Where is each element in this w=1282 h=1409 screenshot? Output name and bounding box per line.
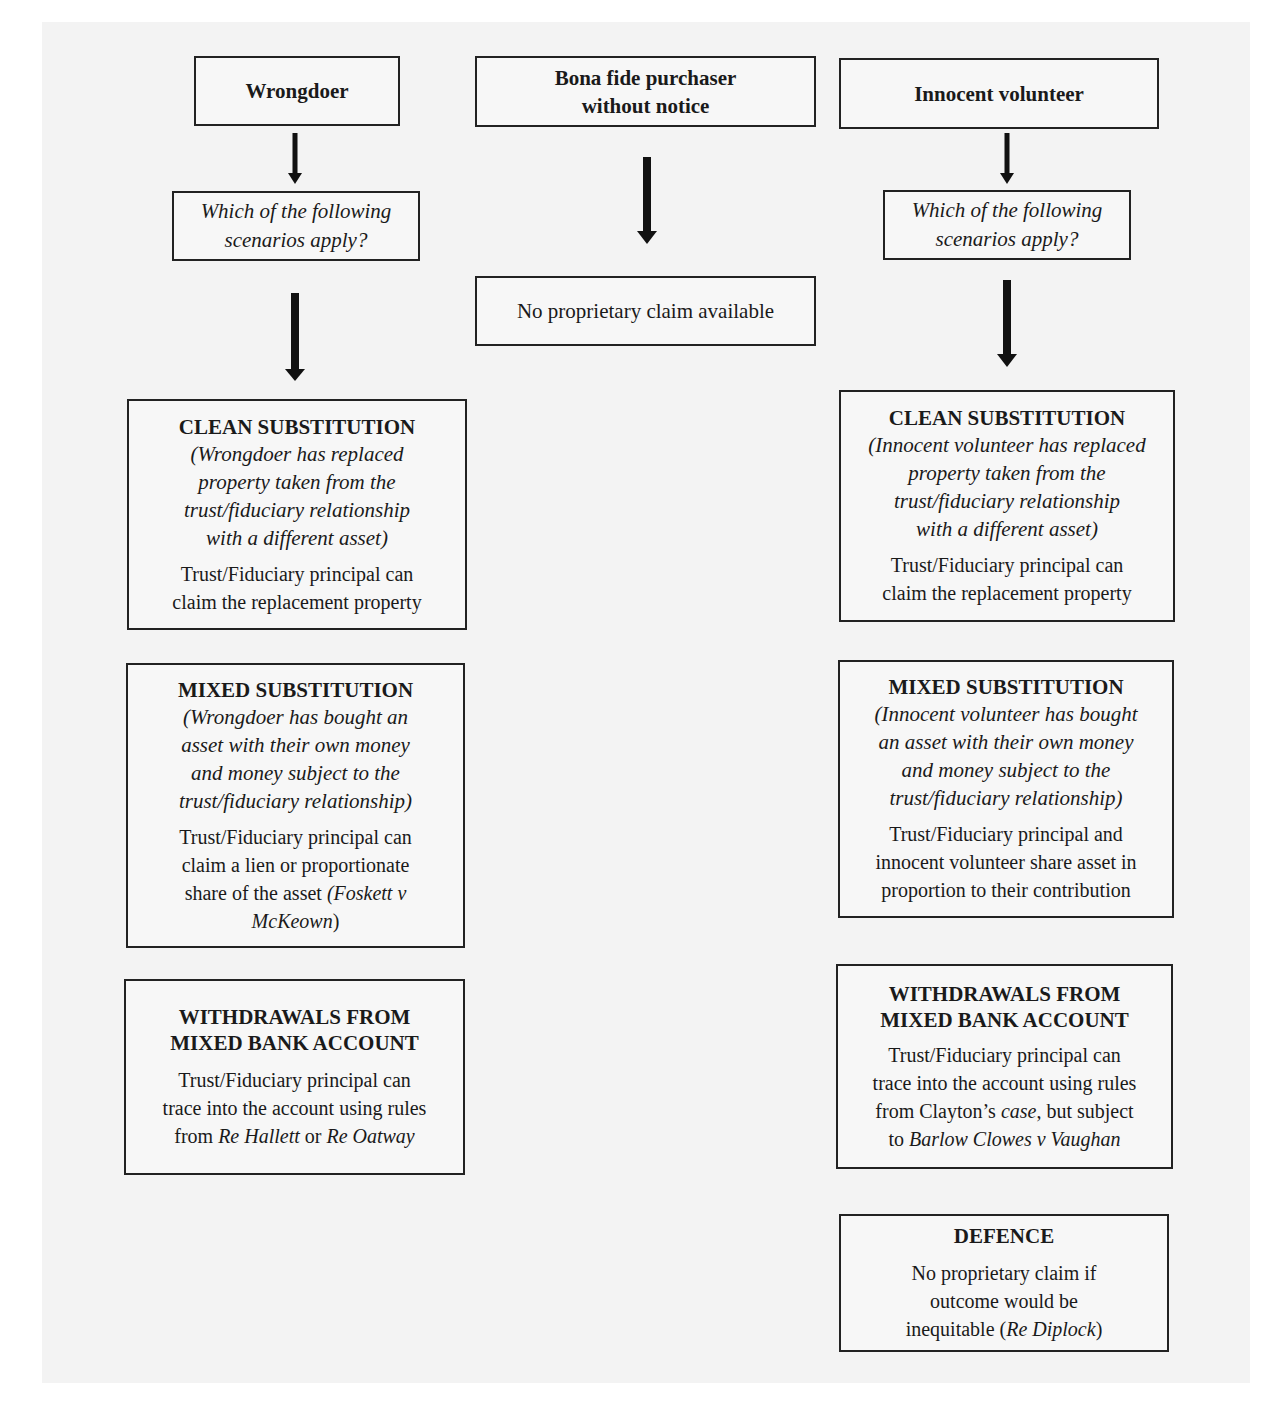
box-subtitle-line: with a different asset) bbox=[206, 524, 388, 552]
box-body-line: claim the replacement property bbox=[172, 588, 421, 616]
innocent-volunteer-question-box: Which of the following scenarios apply? bbox=[883, 190, 1131, 260]
box-body-line: inequitable (Re Diplock) bbox=[906, 1315, 1103, 1343]
box-subtitle-line: (Wrongdoer has bought an bbox=[183, 703, 408, 731]
box-body-line: Trust/Fiduciary principal can bbox=[873, 1041, 1137, 1069]
innocent-volunteer-clean-substitution-box: CLEAN SUBSTITUTION (Innocent volunteer h… bbox=[839, 390, 1175, 622]
case-citation: Re Hallett bbox=[218, 1125, 300, 1147]
box-title-line: WITHDRAWALS FROM bbox=[179, 1004, 411, 1030]
bona-fide-purchaser-header-box: Bona fide purchaser without notice bbox=[475, 56, 816, 127]
no-proprietary-claim-box: No proprietary claim available bbox=[475, 276, 816, 346]
case-citation: (Foskett v bbox=[327, 882, 406, 904]
box-body: Trust/Fiduciary principal and innocent v… bbox=[875, 820, 1136, 904]
box-body-line: Trust/Fiduciary principal can bbox=[163, 1066, 427, 1094]
box-subtitle-line: with a different asset) bbox=[916, 515, 1098, 543]
innocent-volunteer-header: Innocent volunteer bbox=[914, 82, 1084, 106]
box-body: Trust/Fiduciary principal can claim the … bbox=[882, 551, 1131, 607]
box-subtitle-line: property taken from the bbox=[908, 459, 1105, 487]
box-body: Trust/Fiduciary principal can trace into… bbox=[873, 1041, 1137, 1153]
arrow-down-icon bbox=[995, 280, 1019, 370]
box-body-line: outcome would be bbox=[906, 1287, 1103, 1315]
box-subtitle-line: trust/fiduciary relationship) bbox=[179, 787, 412, 815]
wrongdoer-clean-substitution-box: CLEAN SUBSTITUTION (Wrongdoer has replac… bbox=[127, 399, 467, 630]
box-subtitle-line: and money subject to the bbox=[902, 756, 1111, 784]
box-body-line: trace into the account using rules bbox=[163, 1094, 427, 1122]
case-citation: Re Diplock bbox=[1006, 1318, 1095, 1340]
box-body-line: innocent volunteer share asset in bbox=[875, 848, 1136, 876]
text-plain: ) bbox=[1096, 1318, 1103, 1340]
text-plain: from bbox=[174, 1125, 218, 1147]
box-body-line: proportion to their contribution bbox=[875, 876, 1136, 904]
box-subtitle-line: (Wrongdoer has replaced bbox=[190, 440, 403, 468]
box-body-line: from Re Hallett or Re Oatway bbox=[163, 1122, 427, 1150]
box-subtitle-line: (Innocent volunteer has bought bbox=[874, 700, 1137, 728]
box-body-line: Trust/Fiduciary principal and bbox=[875, 820, 1136, 848]
case-citation: McKeown bbox=[252, 910, 333, 932]
box-body-line: Trust/Fiduciary principal can bbox=[179, 823, 412, 851]
box-body-line: Trust/Fiduciary principal can bbox=[882, 551, 1131, 579]
text-plain: , but subject bbox=[1036, 1100, 1133, 1122]
box-body: Trust/Fiduciary principal can claim the … bbox=[172, 560, 421, 616]
box-subtitle-line: an asset with their own money bbox=[879, 728, 1134, 756]
box-title-line: MIXED BANK ACCOUNT bbox=[170, 1030, 419, 1056]
box-subtitle-line: and money subject to the bbox=[191, 759, 400, 787]
question-line: scenarios apply? bbox=[225, 226, 368, 255]
wrongdoer-mixed-substitution-box: MIXED SUBSTITUTION (Wrongdoer has bought… bbox=[126, 663, 465, 948]
box-title-line: WITHDRAWALS FROM bbox=[889, 981, 1121, 1007]
box-body-line: from Clayton’s case, but subject bbox=[873, 1097, 1137, 1125]
box-subtitle-line: (Innocent volunteer has replaced bbox=[868, 431, 1145, 459]
case-citation: Barlow Clowes v Vaughan bbox=[909, 1128, 1121, 1150]
wrongdoer-header-box: Wrongdoer bbox=[194, 56, 400, 126]
text-plain: from Clayton’s bbox=[875, 1100, 1001, 1122]
box-subtitle-line: trust/fiduciary relationship bbox=[184, 496, 410, 524]
wrongdoer-withdrawals-box: WITHDRAWALS FROM MIXED BANK ACCOUNT Trus… bbox=[124, 979, 465, 1175]
box-body-line: McKeown) bbox=[179, 907, 412, 935]
box-subtitle-line: asset with their own money bbox=[181, 731, 410, 759]
wrongdoer-header: Wrongdoer bbox=[245, 79, 348, 103]
box-title: DEFENCE bbox=[954, 1223, 1054, 1249]
case-citation: case bbox=[1001, 1100, 1037, 1122]
no-proprietary-claim-text: No proprietary claim available bbox=[517, 297, 774, 325]
box-body: No proprietary claim if outcome would be… bbox=[906, 1259, 1103, 1343]
box-title: MIXED SUBSTITUTION bbox=[888, 674, 1123, 700]
box-body-line: No proprietary claim if bbox=[906, 1259, 1103, 1287]
text-plain: inequitable ( bbox=[906, 1318, 1007, 1340]
box-subtitle-line: trust/fiduciary relationship) bbox=[889, 784, 1122, 812]
innocent-volunteer-header-box: Innocent volunteer bbox=[839, 58, 1159, 129]
question-line: Which of the following bbox=[912, 196, 1103, 225]
text-plain: or bbox=[300, 1125, 327, 1147]
box-body: Trust/Fiduciary principal can claim a li… bbox=[179, 823, 412, 935]
case-citation: Re Oatway bbox=[326, 1125, 414, 1147]
arrow-down-icon bbox=[997, 133, 1017, 185]
box-title-line: MIXED BANK ACCOUNT bbox=[880, 1007, 1129, 1033]
innocent-volunteer-mixed-substitution-box: MIXED SUBSTITUTION (Innocent volunteer h… bbox=[838, 660, 1174, 918]
question-line: Which of the following bbox=[201, 197, 392, 226]
box-body-line: claim a lien or proportionate bbox=[179, 851, 412, 879]
box-body-line: trace into the account using rules bbox=[873, 1069, 1137, 1097]
innocent-volunteer-defence-box: DEFENCE No proprietary claim if outcome … bbox=[839, 1214, 1169, 1352]
box-body: Trust/Fiduciary principal can trace into… bbox=[163, 1066, 427, 1150]
box-body-line: Trust/Fiduciary principal can bbox=[172, 560, 421, 588]
box-body-line: claim the replacement property bbox=[882, 579, 1131, 607]
wrongdoer-question-box: Which of the following scenarios apply? bbox=[172, 191, 420, 261]
question-line: scenarios apply? bbox=[936, 225, 1079, 254]
text-plain: ) bbox=[333, 910, 340, 932]
box-body-line: to Barlow Clowes v Vaughan bbox=[873, 1125, 1137, 1153]
box-body-line: share of the asset (Foskett v bbox=[179, 879, 412, 907]
text-plain: share of the asset bbox=[185, 882, 327, 904]
bona-fide-header-line: Bona fide purchaser bbox=[555, 66, 737, 90]
box-title: MIXED SUBSTITUTION bbox=[178, 677, 413, 703]
bona-fide-header-line: without notice bbox=[582, 94, 710, 118]
arrow-down-icon bbox=[283, 293, 307, 385]
innocent-volunteer-withdrawals-box: WITHDRAWALS FROM MIXED BANK ACCOUNT Trus… bbox=[836, 964, 1173, 1169]
box-subtitle-line: trust/fiduciary relationship bbox=[894, 487, 1120, 515]
text-plain: to bbox=[888, 1128, 909, 1150]
box-subtitle-line: property taken from the bbox=[198, 468, 395, 496]
arrow-down-icon bbox=[285, 133, 305, 185]
arrow-down-icon bbox=[635, 157, 659, 247]
box-title: CLEAN SUBSTITUTION bbox=[179, 414, 415, 440]
box-title: CLEAN SUBSTITUTION bbox=[889, 405, 1125, 431]
